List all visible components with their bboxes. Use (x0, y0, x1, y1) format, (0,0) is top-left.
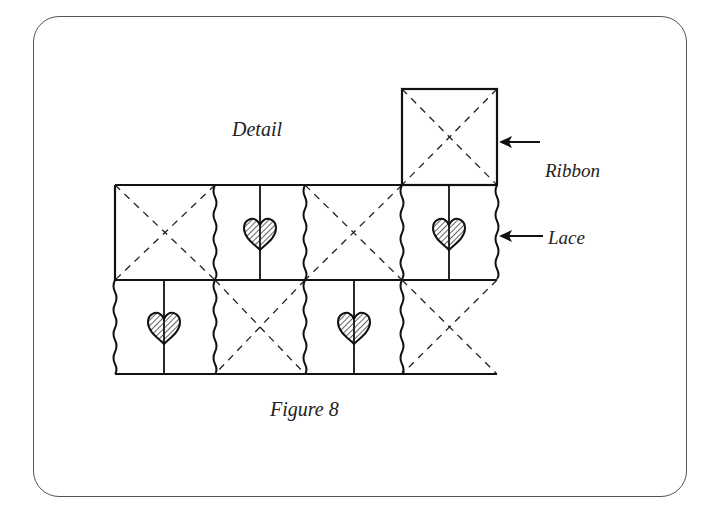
lace-arrow-icon (499, 230, 543, 242)
ribbon-arrow-icon (499, 136, 540, 148)
ribbon-square-top (402, 89, 497, 185)
ribbon-label: Ribbon (545, 160, 600, 182)
heart-icon (148, 313, 180, 344)
figure-caption: Figure 8 (270, 398, 339, 421)
heart-icon (338, 313, 370, 344)
diagram-title: Detail (232, 118, 282, 141)
heart-icon (433, 219, 465, 250)
quilt-diagram (0, 0, 721, 524)
lace-label: Lace (548, 227, 585, 249)
heart-icon (244, 219, 276, 250)
